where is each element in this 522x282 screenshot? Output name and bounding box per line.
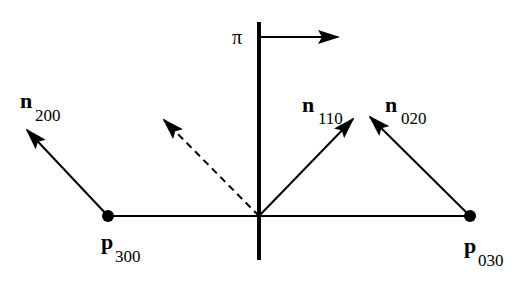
normal-n200-arrow (27, 130, 108, 216)
svg-text:p: p (101, 229, 113, 254)
label-n020: n 020 (385, 92, 427, 128)
svg-text:200: 200 (35, 106, 61, 125)
svg-text:030: 030 (478, 251, 504, 270)
label-p300: p 300 (101, 229, 141, 266)
normal-n110-arrow (259, 119, 353, 216)
svg-text:n: n (20, 88, 32, 113)
diagram-canvas: π n 200 n 110 n 020 p 300 p 030 (0, 0, 522, 282)
svg-text:110: 110 (318, 109, 343, 128)
svg-text:n: n (385, 92, 397, 117)
label-n110: n 110 (302, 92, 343, 128)
normal-n020-arrow (370, 117, 470, 216)
svg-text:p: p (464, 233, 476, 258)
label-p030: p 030 (464, 233, 504, 270)
svg-text:020: 020 (401, 109, 427, 128)
svg-text:300: 300 (115, 247, 141, 266)
svg-text:n: n (302, 92, 314, 117)
plane-label: π (232, 26, 242, 48)
label-n200: n 200 (20, 88, 61, 125)
point-p030 (464, 210, 476, 222)
point-p300 (102, 210, 114, 222)
normal-reflected-dashed-arrow (164, 120, 259, 216)
